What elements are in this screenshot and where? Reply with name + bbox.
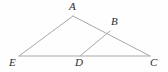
vertex-label-D: D [75, 57, 83, 68]
geometry-figure: A B E D C [0, 0, 168, 72]
vertex-label-B: B [111, 16, 118, 27]
geometry-canvas [0, 0, 168, 72]
vertex-label-E: E [9, 57, 16, 68]
vertex-label-A: A [69, 1, 76, 12]
segment-AE [19, 16, 73, 56]
segment-DB [80, 31, 110, 56]
vertex-label-C: C [150, 57, 157, 68]
